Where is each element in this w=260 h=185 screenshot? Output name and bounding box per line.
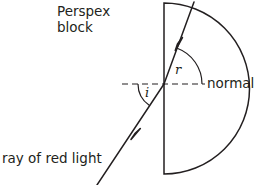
ray-of-red-light-label: ray of red light <box>2 151 102 167</box>
angle-of-refraction-label: r <box>175 63 181 76</box>
incident-ray-line <box>97 84 164 185</box>
refraction-diagram: Perspex block normal ray of red light i … <box>0 0 260 185</box>
normal-label: normal <box>207 76 254 92</box>
angle-of-incidence-label: i <box>145 86 149 99</box>
incident-ray-arrowhead <box>131 129 140 140</box>
perspex-block-label: Perspex block <box>57 4 110 35</box>
